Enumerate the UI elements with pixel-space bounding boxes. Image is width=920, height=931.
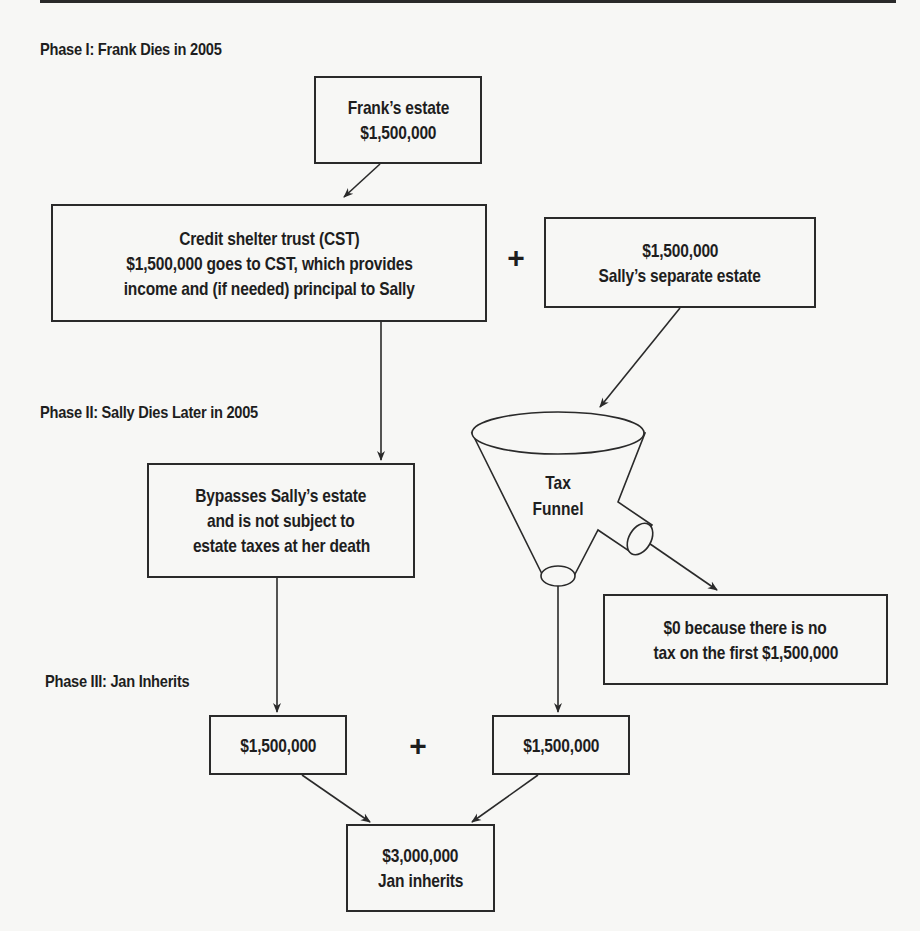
plus-sign-bottom: + (403, 731, 433, 761)
arrow-left-to-jan (302, 775, 370, 822)
arrow-frank-to-cst (344, 164, 380, 197)
arrow-sally-to-funnel (600, 308, 680, 407)
bypass-line-2: and is not subject to (207, 508, 355, 533)
jan-total-amount: $3,000,000 (382, 843, 458, 868)
zero-tax-line-2: tax on the first $1,500,000 (653, 640, 838, 665)
cst-description-2: income and (if needed) principal to Sall… (123, 276, 414, 301)
sally-estate-title: Sally’s separate estate (599, 263, 761, 288)
bypass-box: Bypasses Sally’s estate and is not subje… (147, 463, 415, 578)
tax-funnel-label: Tax Funnel (524, 470, 591, 522)
jan-right-amount-box: $1,500,000 (492, 715, 630, 775)
arrow-right-to-jan (472, 775, 538, 822)
frank-estate-title: Frank’s estate (347, 95, 449, 120)
arrow-spout-to-zero (640, 537, 717, 590)
phase-2-heading: Phase II: Sally Dies Later in 2005 (40, 403, 258, 423)
tax-funnel-label-line-1: Tax (524, 470, 591, 496)
jan-left-amount: $1,500,000 (240, 733, 316, 758)
sally-estate-amount: $1,500,000 (642, 238, 718, 263)
bypass-line-1: Bypasses Sally’s estate (196, 483, 367, 508)
plus-sign-top: + (501, 243, 531, 273)
zero-tax-line-1: $0 because there is no (664, 615, 827, 640)
jan-total-label: Jan inherits (378, 868, 463, 893)
jan-right-amount: $1,500,000 (523, 733, 599, 758)
zero-tax-box: $0 because there is no tax on the first … (603, 594, 888, 685)
jan-left-amount-box: $1,500,000 (209, 715, 347, 775)
cst-description-1: $1,500,000 goes to CST, which provides (126, 251, 412, 276)
frank-estate-amount: $1,500,000 (360, 120, 436, 145)
sally-separate-estate-box: $1,500,000 Sally’s separate estate (544, 217, 816, 308)
bypass-line-3: estate taxes at her death (192, 533, 369, 558)
credit-shelter-trust-box: Credit shelter trust (CST) $1,500,000 go… (51, 204, 487, 322)
cst-title: Credit shelter trust (CST) (179, 226, 359, 251)
phase-3-heading: Phase III: Jan Inherits (45, 672, 189, 692)
jan-total-box: $3,000,000 Jan inherits (346, 824, 495, 912)
frank-estate-box: Frank’s estate $1,500,000 (314, 76, 482, 164)
tax-funnel-label-line-2: Funnel (524, 496, 591, 522)
phase-1-heading: Phase I: Frank Dies in 2005 (40, 40, 222, 60)
